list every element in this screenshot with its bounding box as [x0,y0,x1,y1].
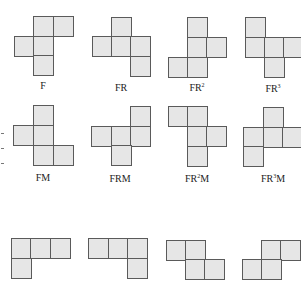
label-base: FR [189,82,201,93]
square-cell [168,57,189,78]
square-cell [206,126,227,147]
square-cell [11,258,32,279]
square-cell [187,37,208,58]
square-cell [263,127,284,148]
square-cell [30,238,51,259]
square-cell [33,145,54,166]
square-cell [88,238,109,259]
label-base: FR [265,83,277,94]
square-cell [33,16,54,37]
square-cell [261,240,282,261]
shape-label: FR3 [243,84,301,94]
square-cell [127,258,148,279]
square-cell [14,36,35,57]
square-cell [111,126,132,147]
square-cell [245,37,266,58]
square-cell [33,105,54,126]
label-base: FRM [109,173,130,184]
square-cell [130,106,151,127]
square-cell [13,125,34,146]
square-cell [111,17,132,38]
square-cell [130,56,151,77]
square-cell [264,37,285,58]
square-cell [187,106,208,127]
square-cell [280,240,301,261]
square-cell [204,259,225,280]
label-suffix: M [200,173,209,184]
shape-label: FM [13,173,73,183]
square-cell [11,238,32,259]
square-cell [187,57,208,78]
edge-tick-mark [1,148,4,149]
tetromino-symmetry-diagram: FFRFR2FR3FMFRMFR2MFR3M [0,0,301,295]
square-cell [282,127,301,148]
square-cell [263,107,284,128]
edge-tick-mark [1,163,4,164]
square-cell [187,146,208,167]
label-suffix: M [276,173,285,184]
shape-label: FR [91,83,151,93]
square-cell [185,240,206,261]
label-base: FM [36,172,50,183]
square-cell [127,238,148,259]
label-base: FR [115,82,127,93]
square-cell [168,106,189,127]
square-cell [33,125,54,146]
square-cell [111,145,132,166]
shape-label: F [13,81,73,91]
square-cell [53,16,74,37]
square-cell [166,240,187,261]
shape-label: FR2M [167,174,227,184]
label-base: F [40,80,46,91]
edge-tick-mark [1,133,4,134]
square-cell [53,145,74,166]
square-cell [108,238,129,259]
shape-label: FR3M [243,174,301,184]
square-cell [185,259,206,280]
label-base: FR [261,173,273,184]
square-cell [33,36,54,57]
square-cell [130,126,151,147]
square-cell [264,57,285,78]
square-cell [33,55,54,76]
square-cell [242,259,263,280]
label-base: FR [185,173,197,184]
square-cell [187,17,208,38]
label-exponent: 2 [202,82,205,88]
label-exponent: 3 [278,83,281,89]
square-cell [187,126,208,147]
square-cell [206,37,227,58]
square-cell [245,17,266,38]
square-cell [50,238,71,259]
square-cell [243,127,264,148]
square-cell [92,36,113,57]
square-cell [261,259,282,280]
square-cell [111,36,132,57]
shape-label: FRM [90,174,150,184]
square-cell [283,37,301,58]
square-cell [130,36,151,57]
square-cell [91,126,112,147]
shape-label: FR2 [167,83,227,93]
square-cell [243,146,264,167]
